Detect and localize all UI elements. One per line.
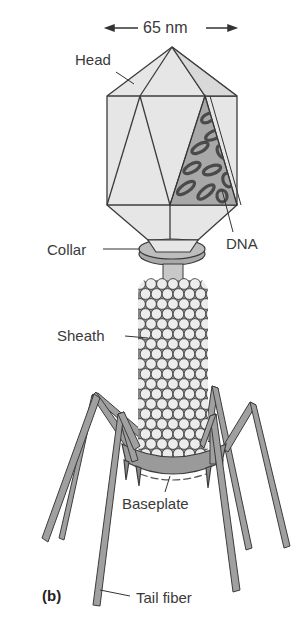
label-dna: DNA — [226, 236, 258, 251]
dimension-label: 65 nm — [143, 20, 187, 36]
label-tail-fiber: Tail fiber — [136, 590, 192, 605]
bacteriophage-diagram: 65 nm Head DNA Collar Sheath Baseplate T… — [0, 0, 294, 618]
collar — [139, 239, 205, 265]
label-baseplate: Baseplate — [122, 496, 189, 511]
phage-illustration — [0, 0, 294, 618]
label-collar: Collar — [47, 242, 86, 257]
label-sheath: Sheath — [57, 328, 105, 343]
panel-label: (b) — [42, 588, 61, 603]
label-head: Head — [75, 52, 111, 67]
